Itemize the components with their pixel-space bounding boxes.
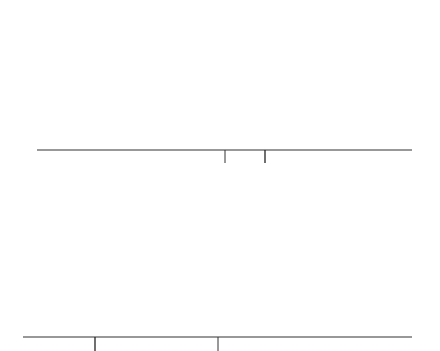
top-chart (37, 150, 412, 163)
normal-curves-figure (0, 0, 440, 351)
bottom-chart (23, 337, 412, 351)
